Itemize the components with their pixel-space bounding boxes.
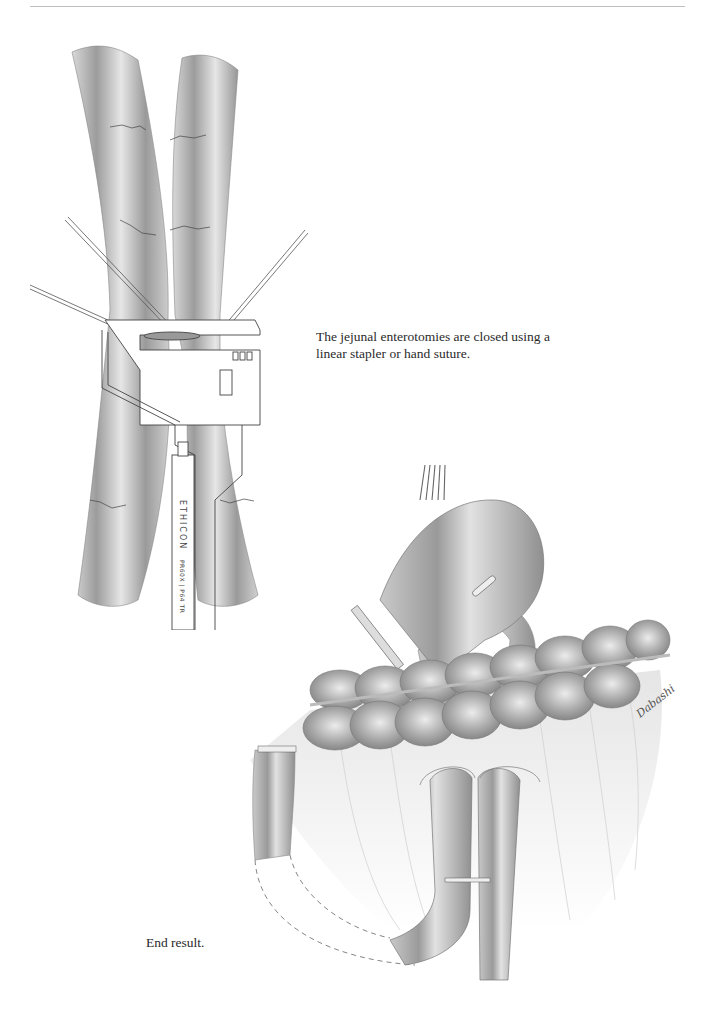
esophagus (420, 465, 445, 500)
traction-sutures (30, 217, 308, 334)
figure-2-caption: End result. (146, 934, 205, 951)
header-rule (30, 6, 685, 7)
stapler-model: PR60X | P64 TR (178, 560, 186, 613)
jejunal-stump (253, 750, 295, 860)
biliopancreatic-limb (478, 768, 520, 980)
stapler-label: ETHICON (178, 500, 187, 550)
figure-end-result-illustration: Dabashi (240, 460, 710, 990)
figure-1-caption: The jejunal enterotomies are closed usin… (316, 328, 576, 362)
